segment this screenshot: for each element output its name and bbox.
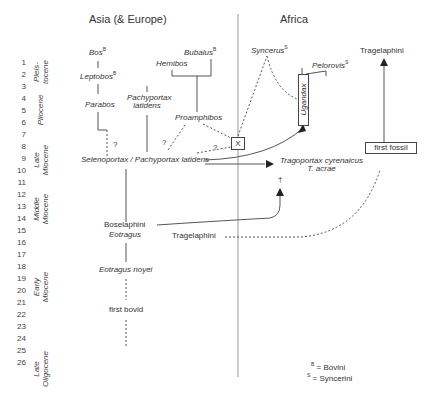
epoch-late-miocene: LateMiocene	[32, 134, 52, 186]
question-mark: ?	[113, 141, 117, 149]
x-node-box: X	[231, 137, 245, 150]
first-fossil-box: first fossil	[365, 142, 417, 154]
question-mark: ?	[162, 139, 166, 147]
tick: 25	[0, 347, 26, 355]
tick: 3	[0, 83, 26, 91]
taxon-leptobos: LeptobosB	[80, 71, 116, 81]
tick: 23	[0, 323, 26, 331]
tick: 9	[0, 155, 26, 163]
taxon-parabos: Parabos	[85, 101, 115, 109]
epoch-early-miocene: EarlyMiocene	[32, 261, 52, 313]
phylogeny-lines	[0, 0, 431, 397]
taxon-tragelaphini-africa: Tragelaphini	[360, 47, 404, 55]
tick: 20	[0, 287, 26, 295]
region-africa: Africa	[280, 13, 308, 25]
taxon-pelorovis: PelorovisS	[312, 60, 348, 70]
tick: 8	[0, 143, 26, 151]
taxon-syncerus: SyncerusS	[251, 45, 288, 55]
taxon-tragoportax: Tragoportax cyrenaicusT. acrae	[280, 157, 363, 173]
tick: 24	[0, 335, 26, 343]
taxon-hemibos: Hemibos	[156, 60, 188, 68]
epoch-middle-miocene: MiddleMiocene	[32, 183, 52, 235]
taxon-tragelaphini-asia: Tragelaphini	[172, 232, 216, 240]
taxon-eotragus-noyei: Eotragus noyei	[99, 266, 152, 274]
ugandax-box: Ugandax	[298, 74, 309, 126]
tick: 12	[0, 191, 26, 199]
tick: 17	[0, 251, 26, 259]
legend-syncerini: S = Syncerini	[307, 373, 352, 383]
tick: 16	[0, 239, 26, 247]
tick: 5	[0, 107, 26, 115]
tick: 10	[0, 167, 26, 175]
tick: 14	[0, 215, 26, 223]
epoch-pleistocene: Pleis-tocene	[32, 52, 52, 92]
tick: 4	[0, 95, 26, 103]
extinction-dagger: †	[278, 176, 282, 184]
tick: 7	[0, 131, 26, 139]
taxon-eotragus: Eotragus	[109, 231, 141, 239]
taxon-pachyportax: Pachyportaxlatidens	[127, 94, 167, 110]
tick: 19	[0, 275, 26, 283]
taxon-first-bovid: first bovid	[109, 306, 143, 314]
taxon-boselaphini: Boselaphini	[104, 221, 145, 229]
taxon-bos: BosB	[89, 47, 106, 57]
region-asia-europe: Asia (& Europe)	[89, 13, 167, 25]
tick: 6	[0, 119, 26, 127]
tick: 18	[0, 263, 26, 271]
taxon-proamphibos: Proamphibos	[175, 114, 222, 122]
tick: 21	[0, 299, 26, 307]
tick: 11	[0, 179, 26, 187]
legend-bovini: B = Bovini	[311, 362, 345, 372]
tick: 15	[0, 227, 26, 235]
question-mark: ?	[213, 144, 217, 152]
tick: 1	[0, 59, 26, 67]
taxon-bubalus: BubalusB	[184, 47, 216, 57]
epoch-late-oligocene: LateOligocene	[32, 341, 52, 397]
epoch-pliocene: Pliocene	[36, 88, 48, 132]
tick: 13	[0, 203, 26, 211]
tick: 26	[0, 359, 26, 367]
tick: 2	[0, 71, 26, 79]
taxon-selenoportax: Selenoportax / Pachyportax latidens	[81, 156, 209, 164]
tick: 22	[0, 311, 26, 319]
